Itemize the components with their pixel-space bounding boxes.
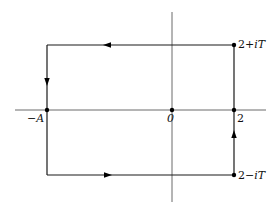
point-two-plus-iT (232, 43, 236, 47)
label-two-plus-iT-var: iT (254, 38, 267, 51)
point-two-minus-iT (232, 173, 236, 177)
label-origin: 0 (167, 112, 174, 125)
label-two-minus-iT-var: iT (254, 169, 267, 182)
diagram-svg: −A 0 2 2+iT 2−iT (0, 0, 276, 212)
arrow-down-icon (44, 78, 49, 86)
point-two (232, 108, 236, 112)
label-neg-A: −A (27, 112, 44, 125)
contour-diagram: −A 0 2 2+iT 2−iT (0, 0, 276, 212)
arrow-right-icon (104, 172, 112, 177)
label-two-plus-iT-num: 2+ (238, 38, 254, 51)
label-two-minus-iT-num: 2− (238, 169, 254, 182)
arrow-up-icon (231, 130, 236, 138)
label-two: 2 (237, 112, 244, 125)
label-two-minus-iT: 2−iT (238, 169, 267, 182)
arrow-left-icon (103, 42, 111, 47)
point-neg-A (45, 108, 49, 112)
label-two-plus-iT: 2+iT (238, 38, 267, 51)
